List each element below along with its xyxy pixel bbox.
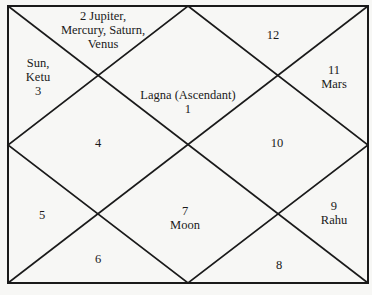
house-11-planets: Mars (321, 77, 347, 91)
house-3-number: 3 (26, 84, 50, 98)
house-9-number: 9 (321, 199, 347, 213)
house-8-number: 8 (276, 258, 282, 272)
house-1-label: Lagna (Ascendant) (140, 88, 235, 102)
house-2-line2: Mercury, Saturn, (61, 23, 145, 37)
house-8: 8 (276, 258, 282, 272)
house-3-line1: Sun, (26, 56, 50, 70)
house-3-line2: Ketu (26, 70, 50, 84)
house-2-line1: 2 Jupiter, (61, 9, 145, 23)
house-10-number: 10 (271, 136, 284, 150)
house-1: Lagna (Ascendant) 1 (140, 88, 235, 116)
house-12: 12 (267, 28, 280, 42)
house-4-number: 4 (95, 136, 101, 150)
house-2-line3: Venus (61, 37, 145, 51)
house-1-number: 1 (140, 102, 235, 116)
house-5-number: 5 (39, 208, 45, 222)
house-4: 4 (95, 136, 101, 150)
house-6: 6 (95, 252, 101, 266)
chart-grid (0, 0, 372, 295)
house-3: Sun, Ketu 3 (26, 56, 50, 98)
house-12-number: 12 (267, 28, 280, 42)
house-5: 5 (39, 208, 45, 222)
house-11: 11 Mars (321, 63, 347, 91)
house-7-planets: Moon (170, 218, 200, 232)
house-9-planets: Rahu (321, 213, 347, 227)
house-7-number: 7 (170, 204, 200, 218)
house-11-number: 11 (321, 63, 347, 77)
house-7: 7 Moon (170, 204, 200, 232)
house-2: 2 Jupiter, Mercury, Saturn, Venus (61, 9, 145, 51)
house-6-number: 6 (95, 252, 101, 266)
birth-chart: Lagna (Ascendant) 1 2 Jupiter, Mercury, … (0, 0, 372, 295)
house-9: 9 Rahu (321, 199, 347, 227)
house-10: 10 (271, 136, 284, 150)
